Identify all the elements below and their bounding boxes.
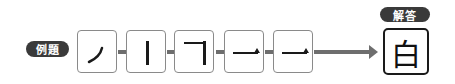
stroke-box-5 (273, 30, 313, 73)
stroke-end-mark (254, 48, 260, 53)
example-badge: 例題 (26, 41, 69, 57)
connector (265, 50, 273, 54)
horizontal-turn-stroke-icon (184, 42, 205, 44)
answer-character: 白 (383, 28, 429, 75)
arrow-shaft (314, 50, 370, 54)
answer-badge: 解答 (380, 7, 430, 22)
turn-vertical-part (203, 41, 206, 65)
stroke-box-3 (174, 30, 214, 73)
stroke-end-mark (303, 48, 309, 53)
left-falling-stroke-icon (78, 31, 118, 74)
connector (167, 50, 174, 54)
vertical-stroke-icon (146, 41, 149, 65)
connector (118, 50, 126, 54)
connector (216, 50, 224, 54)
stroke-box-1 (77, 30, 117, 73)
stroke-box-4 (224, 30, 264, 73)
stroke-box-2 (126, 30, 166, 73)
arrow-head-icon (369, 45, 378, 59)
